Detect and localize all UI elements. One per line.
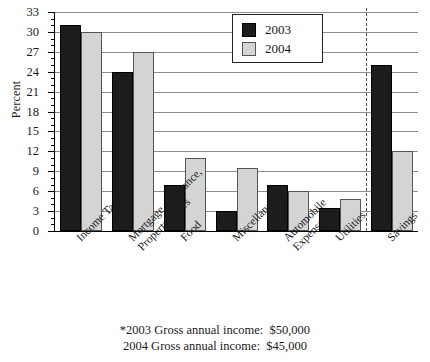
grid-line <box>55 72 418 73</box>
y-axis-tick-label: 9 <box>33 164 39 179</box>
y-axis-tick: 9 <box>48 171 55 172</box>
bar-2003-miscellaneous <box>216 211 237 231</box>
y-axis-minor-tick <box>51 204 55 205</box>
y-axis-minor-tick <box>51 45 55 46</box>
y-axis-tick: 15 <box>48 131 55 132</box>
y-axis-tick-label: 27 <box>27 45 40 60</box>
y-axis-tick-label: 6 <box>33 184 39 199</box>
bar-chart: Percent 03691215182124273033 Income Taxe… <box>0 0 430 362</box>
footnote-line-2: 2004 Gross annual income: $45,000 <box>0 338 430 354</box>
y-axis-minor-tick <box>51 218 55 219</box>
y-axis-tick: 24 <box>48 72 55 73</box>
y-axis-minor-tick <box>51 138 55 139</box>
y-axis-minor-tick <box>51 78 55 79</box>
y-axis-title: Percent <box>9 62 24 138</box>
legend-label-2004: 2004 <box>265 41 291 57</box>
legend-label-2003: 2003 <box>265 22 291 38</box>
y-axis-minor-tick <box>51 224 55 225</box>
y-axis-minor-tick <box>51 178 55 179</box>
gray-square-icon <box>242 42 256 56</box>
black-square-icon <box>242 23 256 37</box>
bar-2003-savings <box>371 65 392 231</box>
y-axis-minor-tick <box>51 165 55 166</box>
bar-2004-mortgage-insurance-property-taxes <box>133 52 154 231</box>
y-axis-minor-tick <box>51 158 55 159</box>
y-axis-minor-tick <box>51 39 55 40</box>
bar-2003-income-taxes <box>60 25 81 231</box>
grid-line <box>55 92 418 93</box>
y-axis-minor-tick <box>51 25 55 26</box>
y-axis-tick: 27 <box>48 52 55 53</box>
y-axis-tick-label: 21 <box>27 85 40 100</box>
y-axis-minor-tick <box>51 19 55 20</box>
y-axis-tick-label: 15 <box>27 125 40 140</box>
legend: 2003 2004 <box>232 14 323 63</box>
y-axis-tick: 33 <box>48 12 55 13</box>
y-axis-minor-tick <box>51 58 55 59</box>
y-axis-tick-label: 3 <box>33 204 39 219</box>
y-axis-minor-tick <box>51 125 55 126</box>
y-axis-minor-tick <box>51 118 55 119</box>
y-axis-minor-tick <box>51 198 55 199</box>
y-axis-tick-label: 18 <box>27 105 40 120</box>
y-axis-tick: 21 <box>48 92 55 93</box>
savings-divider-line <box>366 8 367 231</box>
grid-line <box>55 131 418 132</box>
y-axis-tick-label: 0 <box>33 224 39 239</box>
footnote: *2003 Gross annual income: $50,000 2004 … <box>0 322 430 354</box>
grid-line <box>55 112 418 113</box>
y-axis-tick: 12 <box>48 151 55 152</box>
y-axis-minor-tick <box>51 105 55 106</box>
y-axis-minor-tick <box>51 98 55 99</box>
y-axis-minor-tick <box>51 145 55 146</box>
bar-2004-income-taxes <box>81 32 102 231</box>
y-axis-tick: 6 <box>48 191 55 192</box>
y-axis-tick-label: 33 <box>27 5 40 20</box>
y-axis-minor-tick <box>51 65 55 66</box>
y-axis-minor-tick <box>51 185 55 186</box>
legend-item-2004: 2004 <box>242 39 322 58</box>
legend-item-2003: 2003 <box>242 20 322 39</box>
y-axis-tick: 18 <box>48 112 55 113</box>
grid-line <box>55 12 418 13</box>
grid-line <box>55 151 418 152</box>
y-axis-tick-label: 24 <box>27 65 40 80</box>
y-axis-tick: 3 <box>48 211 55 212</box>
y-axis-tick-label: 30 <box>27 25 40 40</box>
y-axis-tick: 0 <box>48 231 55 232</box>
y-axis-tick: 30 <box>48 32 55 33</box>
y-axis-minor-tick <box>51 85 55 86</box>
footnote-line-1: *2003 Gross annual income: $50,000 <box>0 322 430 338</box>
y-axis-tick-label: 12 <box>27 145 40 160</box>
